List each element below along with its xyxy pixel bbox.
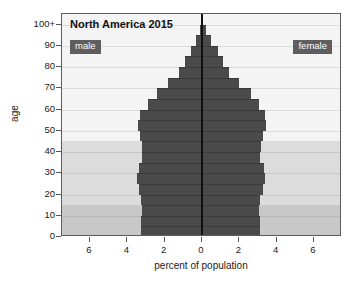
- bar-male-85-89: [191, 46, 202, 57]
- y-tick-mark: [56, 130, 61, 131]
- y-tick-50: 50: [21, 125, 55, 135]
- legend-badge-male: male: [70, 40, 101, 54]
- y-tick-10: 10: [21, 210, 55, 220]
- x-tick-mark: [238, 237, 239, 242]
- y-tick-60: 60: [21, 104, 55, 114]
- y-tick-100+: 100+: [21, 19, 55, 29]
- y-tick-90: 90: [21, 40, 55, 50]
- population-pyramid-figure: age 0102030405060708090100+ North Americ…: [0, 0, 353, 281]
- bar-male-65-69: [157, 88, 202, 99]
- y-tick-mark: [56, 194, 61, 195]
- center-axis-line: [201, 14, 202, 235]
- x-tick-mark: [276, 237, 277, 242]
- bar-male-15-19: [141, 195, 202, 206]
- y-tick-20: 20: [21, 189, 55, 199]
- bar-male-20-24: [139, 184, 202, 195]
- x-tick-2: 2: [154, 244, 174, 255]
- bar-male-25-29: [137, 173, 202, 184]
- x-tick-0: 6: [79, 244, 99, 255]
- bar-female-10-14: [202, 205, 259, 216]
- chart-title: North America 2015: [70, 18, 173, 30]
- bar-female-65-69: [202, 88, 251, 99]
- y-tick-80: 80: [21, 61, 55, 71]
- x-axis-title: percent of population: [61, 260, 341, 271]
- bar-male-40-44: [142, 141, 202, 152]
- bar-male-45-49: [140, 131, 202, 142]
- bar-female-55-59: [202, 110, 265, 121]
- y-tick-mark: [56, 109, 61, 110]
- bar-female-50-54: [202, 120, 266, 131]
- x-tick-5: 4: [266, 244, 286, 255]
- bar-female-25-29: [202, 173, 265, 184]
- x-tick-mark: [164, 237, 165, 242]
- bar-female-30-34: [202, 163, 264, 174]
- bar-male-5-9: [141, 216, 202, 227]
- x-tick-mark: [126, 237, 127, 242]
- bar-male-55-59: [140, 110, 202, 121]
- y-tick-mark: [56, 236, 61, 237]
- bar-female-15-19: [202, 195, 260, 206]
- bar-female-0-4: [202, 226, 260, 236]
- bar-female-75-79: [202, 67, 229, 78]
- y-tick-mark: [56, 172, 61, 173]
- x-tick-mark: [313, 237, 314, 242]
- bar-male-60-64: [148, 99, 202, 110]
- legend-badge-female: female: [293, 40, 332, 54]
- bar-male-0-4: [141, 226, 202, 236]
- y-tick-mark: [56, 151, 61, 152]
- bar-male-30-34: [139, 163, 202, 174]
- bar-female-90-94: [202, 35, 211, 46]
- x-tick-mark: [201, 237, 202, 242]
- bar-male-50-54: [138, 120, 202, 131]
- plot-area: North America 2015 male female: [61, 13, 341, 236]
- y-tick-0: 0: [21, 231, 55, 241]
- bar-male-10-14: [142, 205, 202, 216]
- bar-male-80-84: [185, 56, 202, 67]
- x-tick-1: 4: [116, 244, 136, 255]
- bar-male-70-74: [168, 78, 202, 89]
- bar-male-75-79: [179, 67, 202, 78]
- y-axis-title: age: [9, 94, 20, 134]
- x-tick-4: 2: [228, 244, 248, 255]
- bar-female-80-84: [202, 56, 223, 67]
- y-tick-mark: [56, 87, 61, 88]
- x-tick-mark: [89, 237, 90, 242]
- x-tick-6: 6: [303, 244, 323, 255]
- y-tick-mark: [56, 24, 61, 25]
- y-tick-70: 70: [21, 82, 55, 92]
- bar-female-40-44: [202, 141, 261, 152]
- y-tick-mark: [56, 215, 61, 216]
- y-tick-40: 40: [21, 146, 55, 156]
- bar-female-60-64: [202, 99, 259, 110]
- bar-female-20-24: [202, 184, 263, 195]
- y-tick-mark: [56, 66, 61, 67]
- bar-female-5-9: [202, 216, 260, 227]
- y-tick-mark: [56, 45, 61, 46]
- y-tick-30: 30: [21, 167, 55, 177]
- bar-female-45-49: [202, 131, 263, 142]
- bar-female-70-74: [202, 78, 239, 89]
- bar-male-35-39: [142, 152, 202, 163]
- bar-female-85-89: [202, 46, 218, 57]
- y-axis-tick-labels: 0102030405060708090100+: [19, 0, 55, 281]
- bar-female-35-39: [202, 152, 260, 163]
- x-tick-3: 0: [191, 244, 211, 255]
